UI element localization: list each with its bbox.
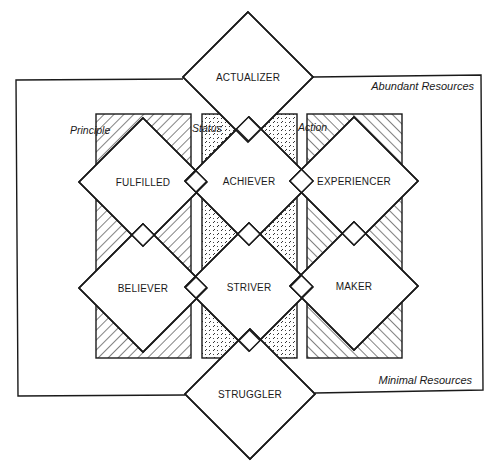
segment-label-actualizer: ACTUALIZER [216,72,280,83]
vals-segment-diagram: Abundant Resources Minimal Resources Pri… [0,0,494,470]
abundant-resources-label: Abundant Resources [370,80,474,92]
segment-label-struggler: STRUGGLER [218,389,282,400]
segment-label-believer: BELIEVER [118,283,169,294]
minimal-resources-label: Minimal Resources [378,374,472,386]
segment-label-experiencer: EXPERIENCER [317,176,391,187]
segment-label-striver: STRIVER [227,282,272,293]
column-label-action: Action [297,121,327,133]
column-label-principle: Principle [70,124,110,136]
segment-label-maker: MAKER [336,281,373,292]
segment-label-fulfilled: FULFILLED [116,177,171,188]
column-label-status: Status [192,122,223,134]
segment-label-achiever: ACHIEVER [223,176,276,187]
